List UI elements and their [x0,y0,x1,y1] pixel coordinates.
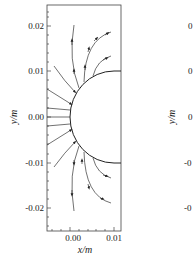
right-ytick-fragment: 0 [188,21,193,31]
right-ytick-fragment: 0 [188,66,193,76]
x-axis-label: x/m [77,244,92,255]
ytick-label: 0.00 [28,112,44,122]
inflow-streamlines [47,66,75,167]
xtick-label: 0.00 [65,233,81,243]
right-ytick-fragment: -0 [184,158,192,168]
y-ticks [47,12,51,226]
ytick-label: -0.02 [25,203,44,213]
ytick-label: -0.01 [25,158,44,168]
plot-frame [47,5,121,231]
ytick-label: 0.02 [28,21,44,31]
x-ticks [52,227,114,231]
right-panel-partial: y/m 0 0 0 -0 -0 [166,21,193,213]
outflow-streamlines-bottom [72,146,111,211]
right-ytick-fragment: -0 [184,203,192,213]
right-ytick-fragment: 0 [188,112,193,122]
xtick-label: 0.01 [106,233,122,243]
y-axis-label: y/m [8,110,19,125]
outflow-streamlines-top [72,25,111,88]
right-y-axis-label: y/m [166,110,177,125]
streamline-chart: 0.02 0.01 0.00 -0.01 -0.02 0.00 0.01 x/m… [0,0,194,267]
ytick-label: 0.01 [28,66,44,76]
